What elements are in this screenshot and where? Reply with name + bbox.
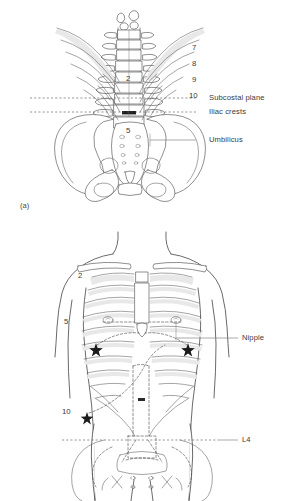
rib-number-5-b: 5	[64, 318, 68, 326]
rib-number-2-b: 2	[78, 272, 82, 280]
ribcage-left-b	[82, 273, 135, 436]
ribcage-right-b	[149, 273, 202, 436]
rib-number-10-b: 10	[62, 408, 71, 416]
label-l4: L4	[242, 436, 251, 444]
sternum-b	[135, 272, 149, 337]
organ-projection-lines-b	[89, 322, 187, 462]
label-nipple: Nipple	[242, 334, 264, 342]
panel-b-anterior-torso-view: 2 5 10 Nipple L4	[0, 0, 284, 501]
panel-b-illustration	[0, 0, 284, 501]
